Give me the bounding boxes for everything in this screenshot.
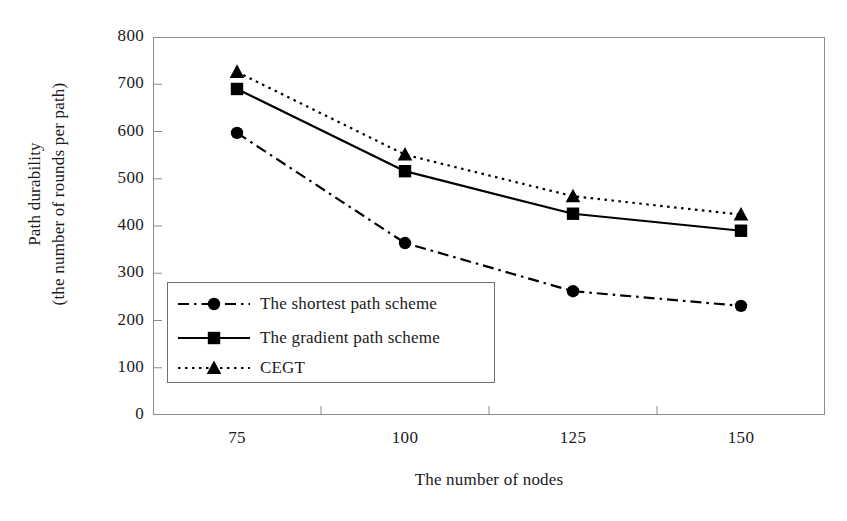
y-tick-label: 500 bbox=[88, 168, 144, 188]
legend-item-label: CEGT bbox=[260, 358, 305, 378]
y-tick-label: 700 bbox=[88, 73, 144, 93]
y-tick-label: 300 bbox=[88, 262, 144, 282]
x-tick-label: 100 bbox=[375, 428, 435, 448]
y-axis-title-line1: Path durability bbox=[23, 29, 47, 359]
legend-item[interactable]: CEGT bbox=[168, 353, 496, 383]
y-tick-label: 800 bbox=[88, 26, 144, 46]
legend-sample-triangle-icon bbox=[168, 355, 260, 381]
legend-item-label: The shortest path scheme bbox=[260, 294, 437, 314]
x-axis-title: The number of nodes bbox=[153, 470, 825, 490]
legend: The shortest path schemeThe gradient pat… bbox=[167, 282, 495, 383]
y-tick-label: 400 bbox=[88, 215, 144, 235]
y-axis-title-line2: (the number of rounds per path) bbox=[47, 29, 71, 359]
legend-line-sample bbox=[168, 291, 260, 317]
y-tick-label: 200 bbox=[88, 310, 144, 330]
x-tick-label: 150 bbox=[711, 428, 771, 448]
data-point-triangle-marker bbox=[207, 360, 222, 374]
legend-sample-square-icon bbox=[168, 325, 260, 351]
legend-item-label: The gradient path scheme bbox=[260, 328, 440, 348]
y-axis-title: Path durability (the number of rounds pe… bbox=[23, 29, 71, 359]
x-tick-label: 125 bbox=[543, 428, 603, 448]
legend-sample-circle-icon bbox=[168, 291, 260, 317]
x-tick-label: 75 bbox=[207, 428, 267, 448]
y-tick-label: 0 bbox=[88, 404, 144, 424]
legend-line-sample bbox=[168, 325, 260, 351]
legend-item[interactable]: The shortest path scheme bbox=[168, 289, 496, 319]
y-tick-label: 100 bbox=[88, 357, 144, 377]
chart-figure: Path durability (the number of rounds pe… bbox=[0, 0, 847, 521]
data-point-square-marker bbox=[208, 332, 220, 344]
legend-item[interactable]: The gradient path scheme bbox=[168, 323, 496, 353]
data-point-circle-marker bbox=[208, 298, 220, 310]
y-tick-label: 600 bbox=[88, 121, 144, 141]
legend-line-sample bbox=[168, 355, 260, 381]
